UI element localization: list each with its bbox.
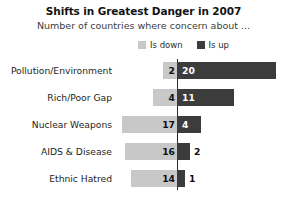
- chart-subtitle: Number of countries where concern about …: [0, 19, 287, 32]
- legend-item-is-up: Is up: [197, 40, 229, 50]
- category-label: Ethnic Hatred: [0, 165, 116, 192]
- value-label-is-up: 2: [194, 143, 224, 160]
- bar-is-up: [177, 143, 190, 160]
- chart-header: Shifts in Greatest Danger in 2007 Number…: [0, 0, 287, 32]
- category-label: AIDS & Disease: [0, 138, 116, 165]
- category-label: Nuclear Weapons: [0, 111, 116, 138]
- legend-label: Is up: [209, 40, 229, 50]
- chart-legend: Is down Is up: [0, 40, 287, 50]
- value-label-is-down: 16: [145, 143, 175, 160]
- value-label-is-down: 2: [145, 62, 175, 79]
- legend-item-is-down: Is down: [138, 40, 183, 50]
- value-label-is-down: 17: [145, 116, 175, 133]
- category-label: Rich/Poor Gap: [0, 84, 116, 111]
- bar-is-up: [177, 170, 185, 187]
- table-row: Pollution/Environment220: [0, 57, 287, 84]
- table-row: AIDS & Disease162: [0, 138, 287, 165]
- value-label-is-up: 4: [182, 116, 212, 133]
- plot-area: Pollution/Environment220Rich/Poor Gap411…: [0, 57, 287, 192]
- value-label-is-up: 1: [189, 170, 219, 187]
- page-title: Shifts in Greatest Danger in 2007: [0, 5, 287, 18]
- category-label: Pollution/Environment: [0, 57, 116, 84]
- square-swatch-icon: [197, 41, 205, 49]
- square-swatch-icon: [138, 41, 146, 49]
- value-label-is-down: 14: [145, 170, 175, 187]
- value-label-is-up: 20: [182, 62, 212, 79]
- chart-container: Shifts in Greatest Danger in 2007 Number…: [0, 0, 287, 198]
- table-row: Rich/Poor Gap411: [0, 84, 287, 111]
- table-row: Nuclear Weapons174: [0, 111, 287, 138]
- legend-label: Is down: [150, 40, 183, 50]
- value-label-is-up: 11: [182, 89, 212, 106]
- value-label-is-down: 4: [145, 89, 175, 106]
- table-row: Ethnic Hatred141: [0, 165, 287, 192]
